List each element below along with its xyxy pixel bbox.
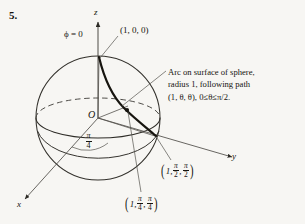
lower-circle-band <box>38 131 160 158</box>
theta-numerator: π <box>137 195 143 203</box>
open-paren: ( <box>125 195 129 212</box>
z-axis-label: z <box>94 8 98 17</box>
leader-line-point-pi2 <box>157 138 171 160</box>
figure-page: 5. z y x ϕ = 0 O (1, 0, 0) π 4 Arc on su… <box>0 0 305 224</box>
point-1-pi2-pi2-label: ( 1, π 2 , π 2 ) <box>160 162 195 179</box>
mid-point-marker <box>125 108 129 112</box>
theta-fraction: π 4 <box>137 195 143 212</box>
separator-comma: , <box>179 166 181 176</box>
leader-line-point-100 <box>100 36 118 58</box>
theta-denominator: 4 <box>137 204 143 212</box>
x-axis <box>25 118 98 199</box>
problem-number: 5. <box>9 10 17 21</box>
close-paren: ) <box>154 195 158 212</box>
x-axis-label: x <box>17 200 21 209</box>
sphere-diagram <box>0 0 305 224</box>
angle-numerator: π <box>86 132 92 141</box>
theta-denominator: 2 <box>173 171 179 179</box>
phi-fraction: π 4 <box>147 195 153 212</box>
theta-numerator: π <box>173 162 179 170</box>
separator-comma: , <box>143 199 145 209</box>
annotation-line-1: Arc on surface of sphere, <box>168 66 255 78</box>
phi-numerator: π <box>147 195 153 203</box>
annotation-line-2: radius 1, following path <box>168 78 255 90</box>
theta-fraction: π 2 <box>173 162 179 179</box>
radius-value: 1, <box>130 199 137 209</box>
phi-fraction: π 2 <box>183 162 189 179</box>
origin-label: O <box>88 110 95 120</box>
leader-line-point-pi4 <box>128 112 141 192</box>
annotation-text: Arc on surface of sphere, radius 1, foll… <box>168 66 255 103</box>
angle-pi-over-4-label: π 4 <box>86 132 92 150</box>
phi-denominator: 2 <box>183 171 189 179</box>
phi-denominator: 4 <box>147 204 153 212</box>
annotation-line-3: (1, θ, θ), 0≤θ≤π/2. <box>168 91 255 103</box>
radius-value: 1, <box>166 166 173 176</box>
phi-zero-label: ϕ = 0 <box>64 30 83 39</box>
close-paren: ) <box>190 162 194 179</box>
path-arc-on-sphere <box>99 57 156 136</box>
equator-front-solid <box>36 118 160 138</box>
phi-numerator: π <box>183 162 189 170</box>
point-1-0-0-label: (1, 0, 0) <box>120 26 149 35</box>
point-1-pi4-pi4-label: ( 1, π 4 , π 4 ) <box>124 195 159 212</box>
y-axis-label: y <box>232 152 236 161</box>
angle-denominator: 4 <box>86 142 92 151</box>
open-paren: ( <box>161 162 165 179</box>
